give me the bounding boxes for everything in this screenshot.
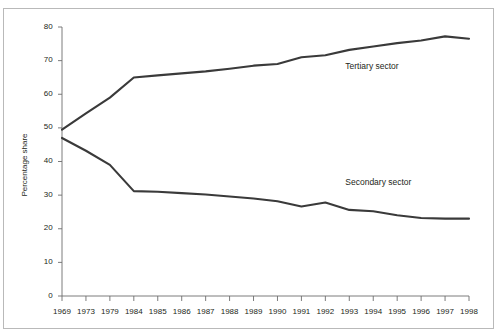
x-tick-label: 1984	[125, 307, 143, 316]
x-tick-label: 1988	[221, 307, 239, 316]
line-chart-plot: Percentage share	[0, 0, 499, 336]
x-tick-label: 1998	[460, 307, 478, 316]
y-tick-label: 30	[44, 190, 53, 199]
x-tick-label: 1996	[412, 307, 430, 316]
x-tick-label: 1995	[388, 307, 406, 316]
x-tick-label: 1986	[173, 307, 191, 316]
x-tick-label: 1990	[269, 307, 287, 316]
x-tick-label: 1973	[77, 307, 95, 316]
x-tick-label: 1987	[197, 307, 215, 316]
x-tick-label: 1979	[101, 307, 119, 316]
y-tick-label: 60	[44, 89, 53, 98]
y-tick-label: 50	[44, 122, 53, 131]
y-axis-title: Percentage share	[20, 133, 29, 197]
x-tick-label: 1993	[340, 307, 358, 316]
series-group	[62, 36, 469, 218]
series-label-secondary-sector: Secondary sector	[345, 177, 411, 187]
series-line-tertiary-sector	[62, 36, 469, 129]
axes-group	[58, 27, 469, 301]
chart-figure: Percentage share 80706050403020100 19691…	[0, 0, 499, 336]
x-tick-label: 1985	[149, 307, 167, 316]
x-tick-label: 1991	[293, 307, 311, 316]
x-tick-label: 1997	[436, 307, 454, 316]
y-tick-label: 80	[44, 22, 53, 31]
x-tick-label: 1989	[245, 307, 263, 316]
x-tick-label: 1969	[53, 307, 71, 316]
y-tick-label: 70	[44, 55, 53, 64]
x-tick-label: 1992	[316, 307, 334, 316]
series-label-tertiary-sector: Tertiary sector	[345, 61, 398, 71]
y-tick-label: 40	[44, 156, 53, 165]
y-tick-label: 20	[44, 223, 53, 232]
x-tick-label: 1994	[364, 307, 382, 316]
y-tick-label: 0	[48, 291, 53, 300]
y-tick-label: 10	[44, 257, 53, 266]
